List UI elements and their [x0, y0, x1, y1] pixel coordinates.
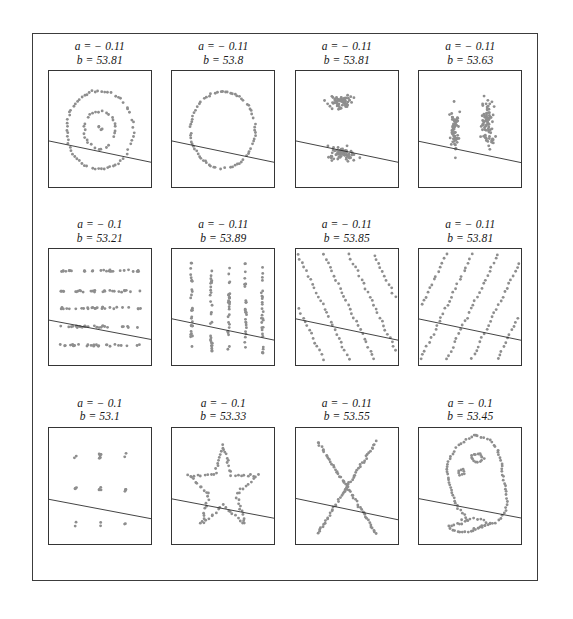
regression-line [49, 321, 151, 340]
panel-caption: a = − 0.11 b = 53.63 [445, 40, 495, 67]
plot-svg [172, 71, 274, 187]
plot-svg [172, 249, 274, 365]
data-points [189, 90, 257, 170]
plot-svg [419, 71, 521, 187]
panel-caption: a = − 0.1 b = 53.33 [200, 397, 246, 424]
scatter-plot-two-horizontal-clusters [295, 70, 399, 188]
panel-horizontal-lines: a = − 0.1 b = 53.21 [38, 218, 162, 396]
intercept-label: b = 53.63 [447, 54, 493, 66]
scatter-plot-dinosaur [418, 427, 522, 545]
plot-svg [296, 428, 398, 544]
slope-label: a = − 0.11 [445, 40, 495, 52]
intercept-label: b = 53.81 [447, 232, 493, 244]
slope-label: a = − 0.1 [448, 397, 493, 409]
scatter-plot-negative-diagonal-stripes [295, 248, 399, 366]
panel-caption: a = − 0.11 b = 53.8 [198, 40, 248, 67]
panel-caption: a = − 0.11 b = 53.81 [445, 218, 495, 245]
plot-svg [419, 249, 521, 365]
scatter-plot-x-shape [295, 427, 399, 545]
data-points [189, 262, 264, 355]
intercept-label: b = 53.89 [200, 232, 246, 244]
regression-line [172, 141, 274, 162]
intercept-label: b = 53.8 [203, 54, 243, 66]
intercept-label: b = 53.81 [77, 54, 123, 66]
panel-caption: a = − 0.1 b = 53.1 [77, 397, 122, 424]
data-points [323, 94, 361, 163]
panel-positive-diagonal-stripes: a = − 0.11 b = 53.81 [409, 218, 533, 396]
panel-star: a = − 0.1 b = 53.33 [162, 397, 286, 575]
panel-x-shape: a = − 0.11 b = 53.55 [285, 397, 409, 575]
data-points [73, 452, 127, 528]
panel-two-horizontal-clusters: a = − 0.11 b = 53.81 [285, 40, 409, 218]
slope-label: a = − 0.11 [322, 218, 372, 230]
plot-svg [419, 428, 521, 544]
intercept-label: b = 53.1 [80, 410, 120, 422]
data-points [296, 253, 397, 362]
figure-datasaurus-dozen: a = − 0.11 b = 53.81 a = − 0.11 b = 53.8 [0, 0, 573, 619]
plot-svg [296, 71, 398, 187]
data-points [420, 253, 520, 361]
regression-line [172, 319, 274, 340]
plot-svg [49, 71, 151, 187]
panel-dinosaur: a = − 0.1 b = 53.45 [409, 397, 533, 575]
regression-line [172, 499, 274, 518]
data-points [448, 95, 497, 160]
scatter-plot-horizontal-lines [48, 248, 152, 366]
panel-caption: a = − 0.1 b = 53.21 [77, 218, 123, 245]
slope-label: a = − 0.1 [77, 218, 122, 230]
intercept-label: b = 53.81 [324, 54, 370, 66]
regression-line [49, 499, 151, 518]
slope-label: a = − 0.11 [198, 40, 248, 52]
panel-vertical-lines: a = − 0.11 b = 53.89 [162, 218, 286, 396]
data-points [59, 269, 142, 348]
scatter-plot-star [171, 427, 275, 545]
panel-caption: a = − 0.11 b = 53.55 [322, 397, 372, 424]
panel-caption: a = − 0.11 b = 53.85 [322, 218, 372, 245]
panel-two-vertical-clusters: a = − 0.11 b = 53.63 [409, 40, 533, 218]
intercept-label: b = 53.45 [447, 410, 493, 422]
scatter-plot-two-vertical-clusters [418, 70, 522, 188]
panel-caption: a = − 0.11 b = 53.81 [322, 40, 372, 67]
slope-label: a = − 0.11 [75, 40, 125, 52]
scatter-plot-dot-lattice [48, 427, 152, 545]
intercept-label: b = 53.85 [324, 232, 370, 244]
regression-line [49, 141, 151, 162]
panel-grid: a = − 0.11 b = 53.81 a = − 0.11 b = 53.8 [32, 33, 538, 581]
scatter-plot-vertical-lines [171, 248, 275, 366]
panel-caption: a = − 0.11 b = 53.89 [198, 218, 248, 245]
regression-line [419, 141, 521, 162]
data-points [186, 443, 260, 524]
panel-circle: a = − 0.11 b = 53.8 [162, 40, 286, 218]
panel-caption: a = − 0.1 b = 53.45 [447, 397, 493, 424]
panel-negative-diagonal-stripes: a = − 0.11 b = 53.85 [285, 218, 409, 396]
scatter-plot-circle [171, 70, 275, 188]
panel-bullseye: a = − 0.11 b = 53.81 [38, 40, 162, 218]
plot-svg [49, 249, 151, 365]
regression-line [296, 498, 398, 519]
panel-caption: a = − 0.11 b = 53.81 [75, 40, 125, 67]
slope-label: a = − 0.11 [445, 218, 495, 230]
slope-label: a = − 0.11 [322, 40, 372, 52]
regression-line [419, 319, 521, 340]
plot-svg [172, 428, 274, 544]
slope-label: a = − 0.1 [77, 397, 122, 409]
slope-label: a = − 0.11 [198, 218, 248, 230]
data-points [316, 439, 377, 534]
panel-dot-lattice: a = − 0.1 b = 53.1 [38, 397, 162, 575]
plot-svg [296, 249, 398, 365]
data-points [65, 89, 135, 170]
scatter-plot-bullseye [48, 70, 152, 188]
scatter-plot-positive-diagonal-stripes [418, 248, 522, 366]
intercept-label: b = 53.21 [77, 232, 123, 244]
intercept-label: b = 53.55 [324, 410, 370, 422]
plot-svg [49, 428, 151, 544]
data-points [446, 433, 509, 533]
slope-label: a = − 0.11 [322, 397, 372, 409]
intercept-label: b = 53.33 [200, 410, 246, 422]
slope-label: a = − 0.1 [201, 397, 246, 409]
